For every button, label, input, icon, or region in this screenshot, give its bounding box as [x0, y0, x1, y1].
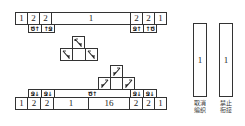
stitch-symbol-icon: ↑Ծ: [145, 26, 154, 32]
cell-value: 1: [89, 14, 94, 23]
top-symbol-right-2: ↑Ծ: [143, 24, 157, 33]
legend-label-line1: 禁止: [216, 99, 236, 106]
cell-value: 1: [19, 99, 24, 108]
top-symbol-left-2: ↑Ջ: [41, 24, 55, 33]
stitch-symbol-icon: Ջ↑: [133, 26, 142, 32]
legend-label-line2: 编织: [190, 106, 210, 113]
pyramid-left-bottom-2: [72, 48, 86, 61]
legend-value: 1: [198, 56, 203, 65]
cell-value: 1: [19, 14, 24, 23]
cell-value: 1: [158, 99, 163, 108]
top-symbol-right-1: Ջ↑: [130, 24, 144, 33]
stitch-symbol-icon: Ջ↓: [31, 91, 40, 97]
stitch-symbol-icon: Ջ↓: [44, 91, 53, 97]
stitch-symbol-icon: Ծ↑: [88, 91, 97, 97]
tuck-stitch-icon: [100, 79, 109, 88]
legend-label-line1: 取消: [190, 99, 210, 106]
cell-value: 1: [158, 14, 163, 23]
tuck-stitch-icon: [62, 50, 71, 59]
top-symbol-left-1: Ծ↑: [28, 24, 42, 33]
top-cell-4: 1: [51, 12, 131, 25]
cell-value: 2: [134, 14, 139, 23]
bottom-cell-4: 1: [53, 97, 89, 110]
stitch-symbol-icon: Ծ↑: [30, 26, 39, 32]
stitch-symbol-icon: Ջ↓: [146, 91, 155, 97]
cell-value: 2: [134, 99, 139, 108]
stitch-symbol-icon: ↑Ջ: [44, 26, 53, 32]
tuck-stitch-icon: [74, 38, 83, 47]
cell-value: 1: [69, 99, 74, 108]
tuck-stitch-icon: [87, 50, 96, 59]
legend-bar-no-join: 1: [219, 23, 233, 97]
legend-label-line2: 衔接: [216, 106, 236, 113]
pyramid-left-bottom-3: [85, 48, 98, 61]
bottom-cell-3: 2: [40, 97, 54, 110]
tuck-stitch-icon: [124, 79, 133, 88]
bottom-cell-6: 2: [129, 97, 143, 110]
bottom-cell-5: 16: [88, 97, 130, 110]
legend-label-cancel-knit: 取消 编织: [190, 99, 210, 113]
cell-value: 16: [105, 99, 114, 108]
stitch-symbol-icon: Ջ↓: [133, 91, 142, 97]
bottom-cell-8: 1: [154, 97, 167, 110]
cell-value: 2: [146, 99, 151, 108]
cell-value: 2: [32, 99, 37, 108]
legend-bar-cancel-knit: 1: [193, 23, 207, 97]
cell-value: 2: [146, 14, 151, 23]
cell-value: 2: [43, 14, 48, 23]
legend-label-no-join: 禁止 衔接: [216, 99, 236, 113]
cell-value: 2: [45, 99, 50, 108]
legend-value: 1: [224, 56, 229, 65]
cell-value: 2: [31, 14, 36, 23]
tuck-stitch-icon: [112, 67, 121, 76]
bottom-cell-2: 2: [27, 97, 41, 110]
